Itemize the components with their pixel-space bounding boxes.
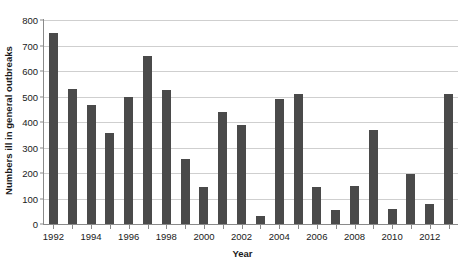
bar-2008 (350, 186, 359, 224)
bar-2005 (294, 94, 303, 224)
y-axis-line (43, 19, 44, 225)
x-tick-mark-2001 (223, 225, 224, 229)
x-tick-mark-2011 (411, 225, 412, 229)
x-tick-mark-2003 (260, 225, 261, 229)
x-tick-label-1998: 1998 (156, 231, 177, 242)
y-tick-label-200: 200 (22, 168, 44, 179)
bars-group (44, 20, 458, 224)
y-tick-label-100: 100 (22, 193, 44, 204)
y-tick-label-300: 300 (22, 142, 44, 153)
x-axis-title: Year (0, 248, 467, 259)
x-tick-mark-1998 (166, 225, 167, 229)
bar-2000 (199, 187, 208, 224)
bar-1992 (49, 33, 58, 224)
x-tick-label-2006: 2006 (306, 231, 327, 242)
x-tick-label-2008: 2008 (344, 231, 365, 242)
bar-1999 (181, 159, 190, 224)
bar-1998 (162, 90, 171, 224)
x-tick-label-2002: 2002 (231, 231, 252, 242)
x-tick-mark-1996 (129, 225, 130, 229)
plot-area: 0100200300400500600700800 19921994199619… (44, 20, 458, 224)
bar-2013 (444, 94, 453, 224)
y-tick-label-500: 500 (22, 91, 44, 102)
x-tick-mark-2007 (336, 225, 337, 229)
x-tick-label-2000: 2000 (193, 231, 214, 242)
x-tick-mark-1999 (185, 225, 186, 229)
y-axis-title-label: Numbers ill in general outbreaks (3, 46, 14, 195)
bar-2003 (256, 216, 265, 224)
y-axis-title: Numbers ill in general outbreaks (0, 0, 16, 240)
x-tick-mark-2009 (373, 225, 374, 229)
x-tick-mark-2012 (430, 225, 431, 229)
x-tick-label-1992: 1992 (43, 231, 64, 242)
bar-2006 (312, 187, 321, 224)
bar-1994 (87, 105, 96, 224)
x-tick-mark-1995 (110, 225, 111, 229)
x-tick-mark-1994 (91, 225, 92, 229)
bar-2002 (237, 125, 246, 224)
y-tick-label-700: 700 (22, 40, 44, 51)
bar-2004 (275, 99, 284, 224)
x-tick-mark-2006 (317, 225, 318, 229)
y-tick-label-800: 800 (22, 15, 44, 26)
x-tick-mark-2010 (392, 225, 393, 229)
bar-1997 (143, 56, 152, 224)
y-tick-label-400: 400 (22, 117, 44, 128)
bar-chart: Numbers ill in general outbreaks 0100200… (0, 0, 467, 272)
x-tick-mark-2004 (279, 225, 280, 229)
x-tick-mark-1997 (148, 225, 149, 229)
x-tick-label-1996: 1996 (118, 231, 139, 242)
x-tick-label-2012: 2012 (419, 231, 440, 242)
bar-2011 (406, 174, 415, 224)
y-tick-label-600: 600 (22, 66, 44, 77)
x-tick-label-2004: 2004 (269, 231, 290, 242)
x-tick-mark-1992 (53, 225, 54, 229)
bar-2001 (218, 112, 227, 224)
bar-2007 (331, 210, 340, 224)
x-tick-label-1994: 1994 (80, 231, 101, 242)
x-tick-mark-2005 (298, 225, 299, 229)
x-tick-mark-1993 (72, 225, 73, 229)
bar-2010 (388, 209, 397, 224)
bar-1995 (105, 133, 114, 224)
x-tick-mark-2002 (242, 225, 243, 229)
bar-2009 (369, 130, 378, 224)
bar-2012 (425, 204, 434, 224)
bar-1993 (68, 89, 77, 224)
x-tick-mark-2008 (355, 225, 356, 229)
bar-1996 (124, 97, 133, 225)
x-tick-label-2010: 2010 (382, 231, 403, 242)
x-tick-mark-2000 (204, 225, 205, 229)
x-tick-mark-2013 (449, 225, 450, 229)
x-axis-ticks: 1992199419961998200020022004200620082010… (44, 225, 458, 249)
